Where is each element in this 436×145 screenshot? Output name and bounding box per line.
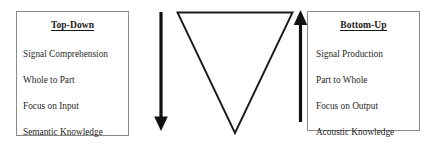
top-down-heading-text: Top-Down [51, 20, 94, 31]
list-item: Focus on Output [316, 101, 415, 112]
list-item: Semantic Knowledge [23, 127, 124, 138]
top-down-list: Signal Comprehension Whole to Part Focus… [17, 37, 128, 135]
list-item: Acoustic Knowledge [316, 127, 415, 138]
list-item: Signal Comprehension [23, 49, 124, 60]
up-arrow-icon [294, 10, 308, 122]
top-down-panel: Top-Down Signal Comprehension Whole to P… [16, 11, 129, 136]
bottom-up-panel: Bottom-Up Signal Production Part to Whol… [307, 11, 420, 131]
list-item: Focus on Input [23, 101, 124, 112]
diagram-canvas: Top-Down Signal Comprehension Whole to P… [0, 0, 436, 145]
top-down-heading: Top-Down [17, 20, 128, 30]
down-arrow-icon [154, 12, 168, 131]
inverted-triangle-icon [178, 13, 293, 134]
bottom-up-list: Signal Production Part to Whole Focus on… [308, 37, 419, 130]
bottom-up-heading: Bottom-Up [308, 20, 419, 30]
list-item: Signal Production [316, 49, 415, 60]
list-item: Whole to Part [23, 75, 124, 86]
bottom-up-heading-text: Bottom-Up [340, 20, 386, 31]
list-item: Part to Whole [316, 75, 415, 86]
